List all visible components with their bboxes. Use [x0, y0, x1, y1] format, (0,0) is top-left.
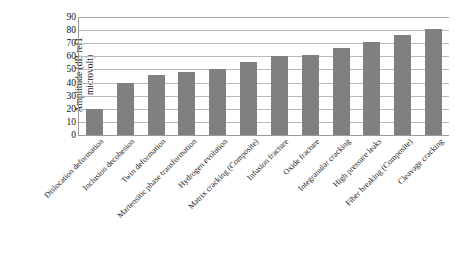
- y-tick-label: 40: [52, 78, 76, 88]
- y-tick-label: 80: [52, 25, 76, 35]
- bar: [425, 29, 442, 135]
- bar: [86, 109, 103, 135]
- y-tick-label: 70: [52, 38, 76, 48]
- bar: [178, 72, 195, 135]
- bar-chart: Amplitude (dB ref1 microvolt) 0102030405…: [0, 0, 469, 266]
- x-tick-label: Dislocation deformation: [43, 137, 106, 200]
- bar: [209, 69, 226, 135]
- y-tick-label: 60: [52, 51, 76, 61]
- y-tick-label: 50: [52, 64, 76, 74]
- bar-series: [79, 17, 449, 135]
- bar: [240, 62, 257, 135]
- y-tick-label: 10: [52, 117, 76, 127]
- bar: [148, 75, 165, 135]
- bar: [394, 35, 411, 135]
- plot-area: [78, 17, 449, 136]
- bar: [117, 83, 134, 135]
- bar: [271, 56, 288, 135]
- bar: [333, 48, 350, 135]
- y-tick-label: 90: [52, 12, 76, 22]
- y-tick-label: 30: [52, 91, 76, 101]
- bar: [363, 42, 380, 135]
- y-tick-label: 20: [52, 104, 76, 114]
- x-axis-tick-labels: Dislocation deformationInclusion decohes…: [0, 137, 469, 266]
- bar: [302, 55, 319, 135]
- y-axis-tick-labels: 0102030405060708090: [52, 11, 76, 141]
